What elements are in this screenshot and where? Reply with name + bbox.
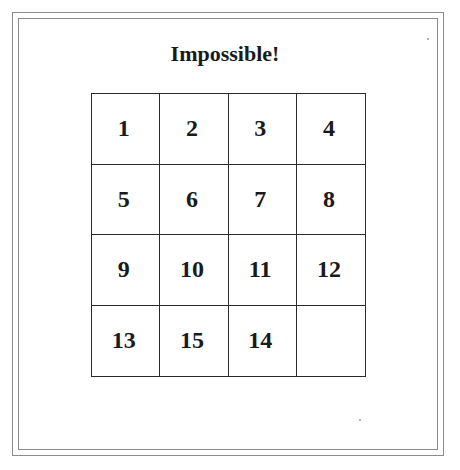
tile-8[interactable]: 8 (297, 165, 365, 236)
tile-11[interactable]: 11 (229, 235, 297, 306)
scan-speck (359, 419, 361, 421)
empty-tile-slot[interactable] (297, 306, 365, 377)
tile-7[interactable]: 7 (229, 165, 297, 236)
tile-4[interactable]: 4 (297, 94, 365, 165)
tile-6[interactable]: 6 (160, 165, 228, 236)
tile-12[interactable]: 12 (297, 235, 365, 306)
tile-13[interactable]: 13 (92, 306, 160, 377)
tile-2[interactable]: 2 (160, 94, 228, 165)
tile-10[interactable]: 10 (160, 235, 228, 306)
scan-speck (427, 38, 429, 40)
tile-9[interactable]: 9 (92, 235, 160, 306)
tile-15[interactable]: 15 (160, 306, 228, 377)
tile-1[interactable]: 1 (92, 94, 160, 165)
page-title: Impossible! (0, 40, 450, 68)
tile-14[interactable]: 14 (229, 306, 297, 377)
fifteen-puzzle-grid: 1 2 3 4 5 6 7 8 9 10 11 12 13 15 14 (91, 93, 366, 377)
tile-3[interactable]: 3 (229, 94, 297, 165)
tile-5[interactable]: 5 (92, 165, 160, 236)
